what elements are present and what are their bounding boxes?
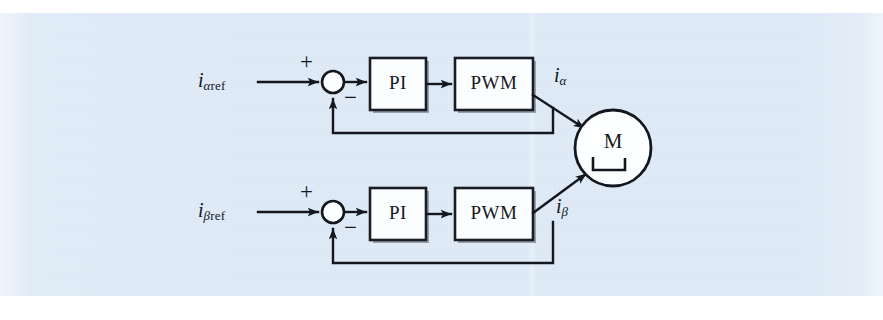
pwm-beta-label: PWM <box>471 202 518 223</box>
summing-junction-beta <box>322 201 344 223</box>
label-i-alpha: iα <box>554 65 567 87</box>
pi-beta-label: PI <box>389 202 407 223</box>
label-i-beta: iβ <box>556 196 568 218</box>
label-i-alpha-ref: iαref <box>198 70 226 92</box>
motor-label: M <box>604 129 623 153</box>
figure-canvas: PI PWM PI PWM M iαref <box>0 0 883 320</box>
pi-alpha-label: PI <box>389 72 407 93</box>
sign-alpha-plus: + <box>300 50 313 73</box>
label-i-alpha-ref-greek: α <box>204 78 211 93</box>
summing-junction-alpha <box>322 71 344 93</box>
pwm-alpha-label: PWM <box>471 72 518 93</box>
sign-beta-minus: − <box>344 216 357 239</box>
label-i-alpha-ref-roman: ref <box>211 78 226 93</box>
label-i-alpha-greek: α <box>560 73 567 88</box>
label-i-beta-greek: β <box>562 204 569 219</box>
sign-alpha-minus: − <box>344 86 357 109</box>
wire-alpha-to-motor <box>533 95 584 128</box>
sign-beta-plus: + <box>300 180 313 203</box>
block-diagram: PI PWM PI PWM M <box>0 0 883 320</box>
label-i-beta-ref: iβref <box>198 200 225 222</box>
label-i-beta-ref-roman: ref <box>210 208 225 223</box>
